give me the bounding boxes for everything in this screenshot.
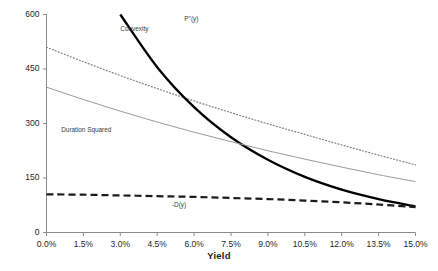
series-line-0: [47, 47, 416, 165]
series-label-3: -D(y): [172, 202, 186, 208]
y-axis-tick-label: 450: [0, 64, 40, 73]
x-axis-title: Yield: [0, 250, 438, 261]
y-axis-tick-label: 150: [0, 173, 40, 182]
x-axis-tick-label: 15.0%: [394, 240, 438, 249]
series-line-1: [120, 15, 415, 207]
series-label-2: Duration Squared: [61, 127, 111, 133]
y-axis-tick-label: 600: [0, 10, 40, 19]
series-label-1: P''(y): [184, 16, 198, 22]
series-line-3: [47, 194, 416, 207]
chart-plot-area: [0, 0, 438, 271]
series-line-2: [47, 87, 416, 181]
y-axis-tick-label: 300: [0, 119, 40, 128]
series-label-0: Convexity: [120, 26, 148, 32]
chart-container: Yield 01503004506000.0%1.5%3.0%4.5%6.0%7…: [0, 0, 438, 271]
y-axis-tick-label: 0: [0, 228, 40, 237]
